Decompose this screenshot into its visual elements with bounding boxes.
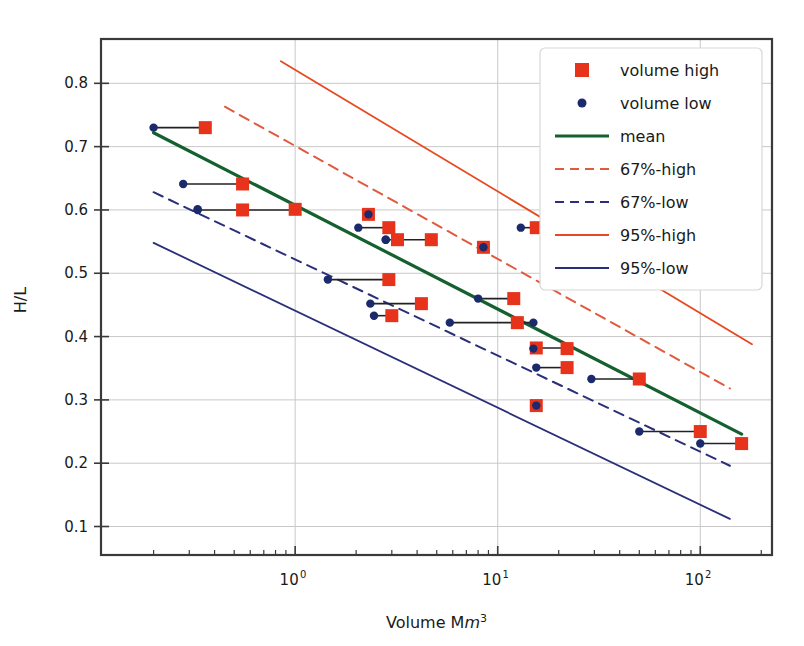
y-tick-label: 0.5 [64, 264, 88, 282]
data-point-volume-high[interactable] [633, 372, 646, 385]
legend-label[interactable]: 95%-high [620, 226, 696, 245]
data-point-volume-low[interactable] [532, 363, 540, 371]
data-point-volume-low[interactable] [324, 275, 332, 283]
data-point-volume-high[interactable] [236, 203, 249, 216]
y-tick-labels: 0.80.70.60.50.40.30.20.1 [64, 74, 88, 535]
data-point-volume-high[interactable] [735, 437, 748, 450]
x-tick-exponent: 0 [300, 569, 306, 580]
data-point-volume-low[interactable] [366, 299, 374, 307]
data-point-volume-low[interactable] [696, 439, 704, 447]
legend-label[interactable]: volume high [620, 61, 719, 80]
legend-marker-volume-high [575, 63, 589, 77]
data-point-volume-low[interactable] [193, 205, 201, 213]
data-point-volume-high[interactable] [425, 233, 438, 246]
y-tick-label: 0.4 [64, 328, 88, 346]
chart-svg: 0.80.70.60.50.40.30.20.1 100101102 H/L V… [0, 0, 804, 646]
y-tick-label: 0.1 [64, 518, 88, 536]
data-point-volume-low[interactable] [517, 223, 525, 231]
x-axis-label-text: Volume Mm3 [386, 612, 487, 633]
data-point-volume-low[interactable] [354, 223, 362, 231]
data-point-volume-high[interactable] [385, 309, 398, 322]
data-point-volume-high[interactable] [415, 297, 428, 310]
data-point-volume-low[interactable] [479, 243, 487, 251]
data-point-volume-low[interactable] [446, 318, 454, 326]
y-tick-label: 0.8 [64, 74, 88, 92]
data-point-volume-low[interactable] [529, 344, 537, 352]
y-tick-label: 0.7 [64, 138, 88, 156]
data-point-volume-high[interactable] [511, 316, 524, 329]
y-tick-label: 0.3 [64, 391, 88, 409]
data-point-volume-high[interactable] [694, 425, 707, 438]
data-point-volume-high[interactable] [561, 361, 574, 374]
data-point-volume-high[interactable] [561, 342, 574, 355]
legend-label[interactable]: mean [620, 127, 665, 146]
data-point-volume-low[interactable] [529, 318, 537, 326]
data-point-volume-low[interactable] [149, 123, 157, 131]
data-point-volume-low[interactable] [364, 210, 372, 218]
data-point-volume-low[interactable] [474, 294, 482, 302]
legend-label[interactable]: volume low [620, 94, 712, 113]
data-point-volume-high[interactable] [236, 177, 249, 190]
legend-marker-volume-low [578, 99, 587, 108]
x-axis-label: Volume Mm3 [386, 612, 487, 633]
legend[interactable]: volume highvolume lowmean67%-high67%-low… [540, 48, 762, 290]
data-point-volume-low[interactable] [532, 401, 540, 409]
data-point-volume-high[interactable] [289, 203, 302, 216]
data-point-volume-low[interactable] [635, 427, 643, 435]
y-tick-label: 0.6 [64, 201, 88, 219]
x-tick-exponent: 1 [503, 569, 509, 580]
y-tick-label: 0.2 [64, 454, 88, 472]
legend-label[interactable]: 95%-low [620, 259, 689, 278]
x-tick-label: 10 [280, 571, 299, 589]
data-point-volume-low[interactable] [382, 236, 390, 244]
data-point-volume-high[interactable] [199, 121, 212, 134]
data-point-volume-low[interactable] [370, 311, 378, 319]
legend-label[interactable]: 67%-low [620, 193, 689, 212]
data-point-volume-low[interactable] [179, 180, 187, 188]
data-point-volume-high[interactable] [391, 233, 404, 246]
x-tick-label: 10 [685, 571, 704, 589]
figure-canvas: 0.80.70.60.50.40.30.20.1 100101102 H/L V… [0, 0, 804, 646]
x-tick-labels: 100101102 [280, 569, 712, 589]
y-axis-label: H/L [11, 287, 30, 313]
data-point-volume-high[interactable] [507, 292, 520, 305]
data-point-volume-high[interactable] [382, 221, 395, 234]
data-point-volume-high[interactable] [382, 273, 395, 286]
legend-label[interactable]: 67%-high [620, 160, 696, 179]
data-point-volume-low[interactable] [587, 375, 595, 383]
x-tick-label: 10 [482, 571, 501, 589]
x-tick-exponent: 2 [705, 569, 711, 580]
